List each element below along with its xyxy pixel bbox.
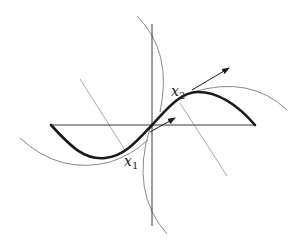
normal-line-x2 xyxy=(180,103,227,176)
osculating-circle-x2 xyxy=(193,86,287,110)
label-x2: x2 xyxy=(171,84,185,101)
osculating-circle-top xyxy=(137,16,163,112)
label-x1: x1 xyxy=(124,154,138,171)
diagram-canvas xyxy=(0,0,303,246)
normal-line-x1 xyxy=(80,79,125,150)
osculating-circle-bottom xyxy=(143,128,167,234)
